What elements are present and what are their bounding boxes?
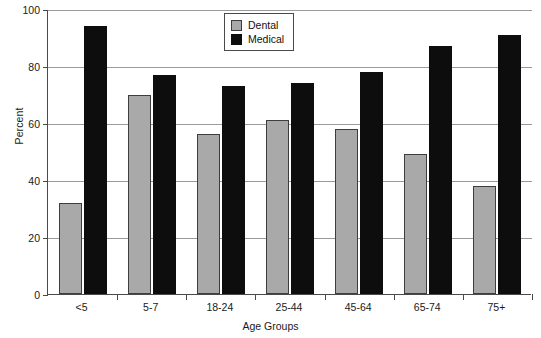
- bar-dental-6[interactable]: [473, 186, 496, 294]
- y-axis-tick-mark: [43, 67, 48, 68]
- x-axis-tick-mark: [255, 294, 256, 300]
- bar-chart: Percent 020406080100 <55-718-2425-4445-6…: [0, 0, 541, 338]
- y-axis-tick-label: 80: [10, 62, 40, 72]
- x-axis-tick-label: 5-7: [111, 301, 191, 313]
- y-axis-tick-mark: [43, 10, 48, 11]
- x-axis-tick-label: 18-24: [180, 301, 260, 313]
- bar-dental-1[interactable]: [128, 95, 151, 295]
- legend-label-dental: Dental: [248, 19, 278, 31]
- x-axis-tick-mark: [325, 294, 326, 300]
- x-axis-tick-label: 65-74: [387, 301, 467, 313]
- y-axis-tick-label: 0: [10, 290, 40, 300]
- bar-medical-1[interactable]: [153, 75, 176, 294]
- bar-dental-5[interactable]: [404, 154, 427, 294]
- y-axis-tick-mark: [43, 238, 48, 239]
- gridline: [48, 181, 532, 182]
- y-axis-tick-label: 40: [10, 176, 40, 186]
- y-axis-tick-label: 100: [10, 5, 40, 15]
- legend-item-dental[interactable]: Dental: [231, 18, 284, 32]
- gridline: [48, 10, 532, 11]
- y-axis-tick-mark: [43, 181, 48, 182]
- bar-medical-3[interactable]: [291, 83, 314, 294]
- x-axis-tick-label: 45-64: [318, 301, 398, 313]
- bar-medical-4[interactable]: [360, 72, 383, 294]
- x-axis-tick-label: 75+: [456, 301, 536, 313]
- x-axis-tick-mark: [394, 294, 395, 300]
- bar-medical-2[interactable]: [222, 86, 245, 294]
- x-axis-tick-mark: [186, 294, 187, 300]
- chart-legend: Dental Medical: [224, 13, 294, 51]
- bar-dental-4[interactable]: [335, 129, 358, 294]
- y-axis-tick-label: 20: [10, 233, 40, 243]
- legend-swatch-medical-icon: [231, 34, 242, 45]
- bar-dental-0[interactable]: [59, 203, 82, 294]
- x-axis-tick-mark: [532, 294, 533, 300]
- bar-dental-3[interactable]: [266, 120, 289, 294]
- x-axis-title: Age Groups: [0, 320, 541, 332]
- y-axis-tick-label: 60: [10, 119, 40, 129]
- gridline: [48, 124, 532, 125]
- legend-label-medical: Medical: [248, 33, 284, 45]
- plot-area: [47, 10, 531, 295]
- x-axis-tick-mark: [117, 294, 118, 300]
- x-axis-tick-mark: [463, 294, 464, 300]
- y-axis-tick-mark: [43, 295, 48, 296]
- legend-item-medical[interactable]: Medical: [231, 32, 284, 46]
- gridline: [48, 238, 532, 239]
- bar-medical-5[interactable]: [429, 46, 452, 294]
- gridline: [48, 67, 532, 68]
- bar-dental-2[interactable]: [197, 134, 220, 294]
- bar-medical-0[interactable]: [84, 26, 107, 294]
- x-axis-tick-label: 25-44: [249, 301, 329, 313]
- legend-swatch-dental-icon: [231, 20, 242, 31]
- bar-medical-6[interactable]: [498, 35, 521, 294]
- x-axis-tick-label: <5: [42, 301, 122, 313]
- y-axis-tick-mark: [43, 124, 48, 125]
